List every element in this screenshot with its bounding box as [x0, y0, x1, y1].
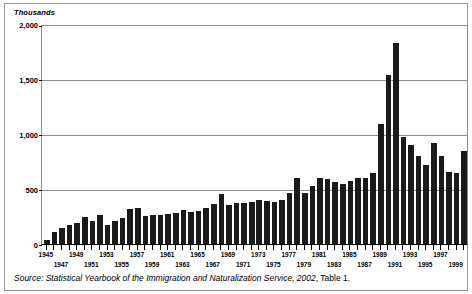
x-tick-label-1953: 1953: [99, 251, 113, 258]
y-tick-mark-1000: [39, 135, 42, 136]
bar: [325, 179, 331, 244]
x-tick-label-1965: 1965: [190, 251, 204, 258]
x-tick-label-1971: 1971: [236, 261, 250, 268]
x-tick-label-1945: 1945: [39, 251, 53, 258]
bar: [165, 214, 171, 244]
x-tick-label-1961: 1961: [160, 251, 174, 258]
bar: [105, 225, 111, 244]
x-tick-label-1983: 1983: [327, 261, 341, 268]
bar: [363, 178, 369, 244]
bar: [59, 228, 65, 244]
bar: [386, 75, 392, 244]
bar: [272, 202, 278, 244]
bar: [310, 186, 316, 244]
bar: [423, 165, 429, 244]
bar: [143, 216, 149, 244]
bar: [226, 205, 232, 244]
x-tick-label-1995: 1995: [418, 261, 432, 268]
x-tick-label-1959: 1959: [145, 261, 159, 268]
bar: [378, 124, 384, 244]
bar: [173, 213, 179, 244]
bar: [203, 208, 209, 244]
bar: [454, 173, 460, 244]
x-tick-label-1975: 1975: [266, 261, 280, 268]
x-tick-label-1969: 1969: [221, 251, 235, 258]
bar: [302, 193, 308, 244]
bar: [181, 210, 187, 244]
bar: [370, 173, 376, 244]
y-tick-mark-2000: [39, 26, 42, 27]
x-tick-label-1991: 1991: [388, 261, 402, 268]
x-tick-label-1977: 1977: [281, 251, 295, 258]
bar: [97, 215, 103, 244]
x-tick-label-1999: 1999: [448, 261, 462, 268]
bar: [82, 217, 88, 244]
source-note-italic: Source: Statistical Yearbook of the Immi…: [14, 273, 316, 283]
bar: [112, 221, 118, 244]
bar: [150, 215, 156, 244]
x-tick-label-1987: 1987: [357, 261, 371, 268]
bar: [355, 178, 361, 244]
bar: [332, 182, 338, 244]
bar: [401, 137, 407, 244]
bar: [249, 202, 255, 244]
x-tick-label-1979: 1979: [297, 261, 311, 268]
x-tick-label-1993: 1993: [403, 251, 417, 258]
bar: [439, 156, 445, 244]
source-note: Source: Statistical Yearbook of the Immi…: [14, 273, 350, 283]
bar: [408, 145, 414, 244]
bar: [279, 200, 285, 244]
bar: [431, 143, 437, 244]
x-tick-label-1955: 1955: [114, 261, 128, 268]
bar: [196, 211, 202, 244]
x-tick-label-1973: 1973: [251, 251, 265, 258]
bar: [264, 201, 270, 244]
y-tick-mark-500: [39, 190, 42, 191]
bar: [294, 178, 300, 244]
bar: [287, 193, 293, 244]
bar: [234, 203, 240, 244]
y-tick-label-1500: 1,500: [19, 76, 38, 85]
bar: [241, 203, 247, 244]
bar: [211, 204, 217, 244]
y-tick-label-1000: 1,000: [19, 131, 38, 140]
figure-page: Thousands 05001,0001,5002,000 1945194719…: [0, 0, 472, 294]
bar: [416, 156, 422, 244]
bar-series: [43, 26, 466, 244]
y-tick-label-0: 0: [34, 241, 38, 250]
x-tick-label-1951: 1951: [84, 261, 98, 268]
bar: [446, 172, 452, 244]
source-note-plain: , Table 1.: [316, 273, 350, 283]
bar: [135, 208, 141, 244]
x-tick-label-1981: 1981: [312, 251, 326, 258]
x-tick-label-1947: 1947: [54, 261, 68, 268]
x-tick-label-1985: 1985: [342, 251, 356, 258]
bar: [317, 178, 323, 244]
x-tick-label-1967: 1967: [206, 261, 220, 268]
bar: [348, 181, 354, 244]
bar: [120, 218, 126, 244]
bar: [74, 223, 80, 244]
bar: [90, 221, 96, 244]
bar: [340, 184, 346, 244]
x-tick-label-1997: 1997: [433, 251, 447, 258]
bar: [127, 209, 133, 244]
y-tick-label-500: 500: [25, 186, 38, 195]
bar: [188, 212, 194, 244]
x-tick-label-1989: 1989: [372, 251, 386, 258]
x-tick-label-1963: 1963: [175, 261, 189, 268]
bar: [52, 232, 58, 244]
x-tick-label-1949: 1949: [69, 251, 83, 258]
bar: [67, 225, 73, 244]
y-tick-label-2000: 2,000: [19, 21, 38, 30]
bar: [461, 151, 467, 245]
bar: [44, 240, 50, 244]
x-axis-tick-labels: 1945194719491951195319551957195919611963…: [0, 250, 472, 272]
y-tick-mark-1500: [39, 80, 42, 81]
bar: [219, 194, 225, 244]
bar: [393, 43, 399, 244]
plot-area: [41, 25, 468, 245]
x-tick-label-1957: 1957: [130, 251, 144, 258]
bar: [256, 200, 262, 244]
bar: [158, 215, 164, 244]
